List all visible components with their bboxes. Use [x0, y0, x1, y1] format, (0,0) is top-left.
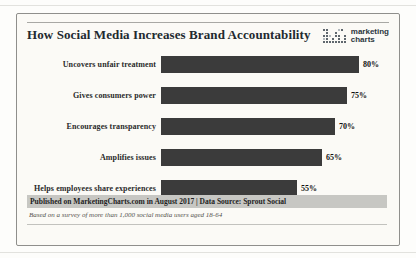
logo-dot — [344, 29, 346, 31]
photo-edge-top — [0, 5, 416, 6]
logo-dot — [344, 32, 346, 34]
bar-row: Encourages transparency70% — [27, 118, 389, 135]
footer-bottom-rule — [27, 224, 387, 225]
category-label: Amplifies issues — [27, 153, 161, 162]
logo-dot — [338, 32, 340, 34]
logo-dot — [326, 29, 328, 31]
value-label: 80% — [363, 60, 379, 69]
page-title: How Social Media Increases Brand Account… — [27, 27, 311, 43]
logo-dot — [335, 35, 337, 37]
value-label: 70% — [339, 122, 355, 131]
logo-dot — [329, 35, 331, 37]
category-label: Uncovers unfair treatment — [27, 60, 161, 69]
dots-grid-logo-icon — [323, 29, 347, 44]
logo-dot — [323, 29, 325, 31]
logo-dot — [344, 38, 346, 40]
logo-dot — [329, 38, 331, 40]
logo-dot — [341, 38, 343, 40]
bar-track: 65% — [161, 149, 389, 166]
logo-dot — [332, 32, 334, 34]
logo-dot — [344, 41, 346, 43]
bar-track: 80% — [161, 56, 389, 73]
bar — [161, 149, 322, 166]
logo-dot — [344, 35, 346, 37]
logo-dot — [332, 35, 334, 37]
logo-dot — [341, 32, 343, 34]
photo-edge-bottom — [0, 252, 416, 253]
bar — [161, 118, 335, 135]
bar-row: Uncovers unfair treatment80% — [27, 56, 389, 73]
logo-dot — [326, 35, 328, 37]
logo-dot — [323, 41, 325, 43]
category-label: Encourages transparency — [27, 122, 161, 131]
published-bar: Published on MarketingCharts.com in Augu… — [27, 195, 387, 208]
title-top-rule — [27, 22, 389, 23]
logo-dot — [341, 35, 343, 37]
chart-header: How Social Media Increases Brand Account… — [27, 27, 389, 44]
logo-dot — [338, 29, 340, 31]
footnote: Based on a survey of more than 1,000 soc… — [29, 211, 222, 219]
logo-dot — [329, 29, 331, 31]
logo-dot — [323, 35, 325, 37]
logo-dot — [323, 32, 325, 34]
value-label: 65% — [326, 153, 342, 162]
logo-dot — [332, 41, 334, 43]
logo-dot — [326, 38, 328, 40]
bar-chart: Uncovers unfair treatment80%Gives consum… — [27, 56, 389, 197]
bar-row: Amplifies issues65% — [27, 149, 389, 166]
logo-dot — [335, 32, 337, 34]
logo-line2: charts — [351, 36, 389, 44]
bar-track: 70% — [161, 118, 389, 135]
logo-dot — [338, 35, 340, 37]
category-label: Gives consumers power — [27, 91, 161, 100]
logo-dot — [341, 29, 343, 31]
logo-dot — [323, 38, 325, 40]
logo-dot — [335, 29, 337, 31]
bar — [161, 56, 359, 73]
logo-wordmark: marketing charts — [351, 28, 389, 44]
logo-dot — [326, 41, 328, 43]
value-label: 55% — [301, 184, 317, 193]
logo-dot — [332, 29, 334, 31]
logo-dot — [329, 32, 331, 34]
logo-dot — [341, 41, 343, 43]
bar — [161, 87, 347, 104]
logo-dot — [338, 38, 340, 40]
logo-dot — [326, 32, 328, 34]
logo-dot — [335, 38, 337, 40]
logo-dot — [332, 38, 334, 40]
bar-row: Gives consumers power75% — [27, 87, 389, 104]
logo-dot — [329, 41, 331, 43]
logo-dot — [335, 41, 337, 43]
logo-dot — [338, 41, 340, 43]
bar-track: 75% — [161, 87, 389, 104]
category-label: Helps employees share experiences — [27, 184, 161, 193]
value-label: 75% — [351, 91, 367, 100]
chart-card: How Social Media Increases Brand Account… — [16, 13, 400, 246]
marketingcharts-logo: marketing charts — [323, 28, 389, 44]
